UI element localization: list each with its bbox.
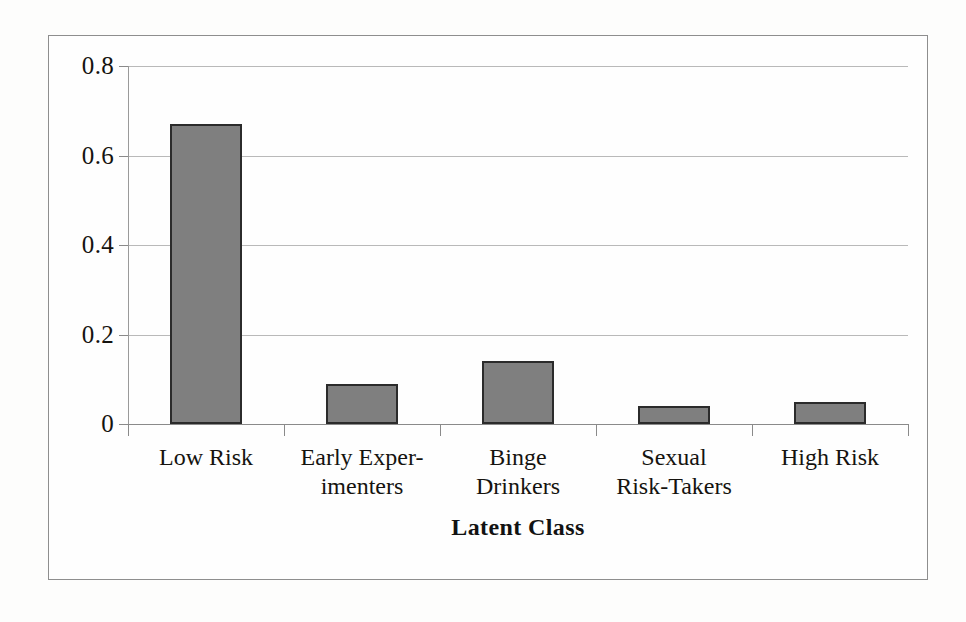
y-tick-0.6 — [119, 156, 128, 157]
category-label-sexual-risk-takers: SexualRisk-Takers — [596, 443, 752, 501]
category-label-binge-drinkers: BingeDrinkers — [440, 443, 596, 501]
y-tick-0.2 — [119, 335, 128, 336]
bar-early-experimenters — [326, 384, 398, 424]
category-separator-tick — [752, 424, 753, 436]
category-label-low-risk: Low Risk — [128, 443, 284, 472]
y-axis-label-0: 0 — [101, 411, 114, 436]
figure-page: 00.20.40.60.8 Low RiskEarly Exper-imente… — [0, 0, 966, 622]
category-separator-tick — [440, 424, 441, 436]
category-label-line: Drinkers — [440, 472, 596, 501]
bar-high-risk — [794, 402, 866, 424]
bar-sexual-risk-takers — [638, 406, 710, 424]
category-separator-tick — [908, 424, 909, 436]
bar-low-risk — [170, 124, 242, 424]
y-tick-0.8 — [119, 66, 128, 67]
y-axis-label-0.6: 0.6 — [82, 143, 114, 168]
category-label-high-risk: High Risk — [752, 443, 908, 472]
category-label-line: Risk-Takers — [596, 472, 752, 501]
bar-binge-drinkers — [482, 361, 554, 424]
category-separator-tick — [128, 424, 129, 436]
category-label-line: Sexual — [641, 444, 706, 470]
x-axis-title: Latent Class — [128, 514, 908, 541]
y-axis-label-0.4: 0.4 — [82, 232, 114, 257]
y-axis-label-0.2: 0.2 — [82, 322, 114, 347]
category-label-line: imenters — [284, 472, 440, 501]
category-label-line: Binge — [489, 444, 546, 470]
category-label-line: Low Risk — [159, 444, 253, 470]
x-axis-category-labels: Low RiskEarly Exper-imentersBingeDrinker… — [128, 443, 908, 513]
y-tick-0.4 — [119, 245, 128, 246]
category-label-line: Early Exper- — [301, 444, 424, 470]
category-label-early-experimenters: Early Exper-imenters — [284, 443, 440, 501]
y-tick-0 — [119, 424, 128, 425]
category-label-line: High Risk — [781, 444, 879, 470]
gridline-0 — [128, 424, 908, 425]
category-separator-tick — [596, 424, 597, 436]
y-axis-tick-labels: 00.20.40.60.8 — [54, 66, 114, 424]
y-axis-label-0.8: 0.8 — [82, 53, 114, 78]
bar-series — [128, 66, 908, 424]
category-separator-tick — [284, 424, 285, 436]
